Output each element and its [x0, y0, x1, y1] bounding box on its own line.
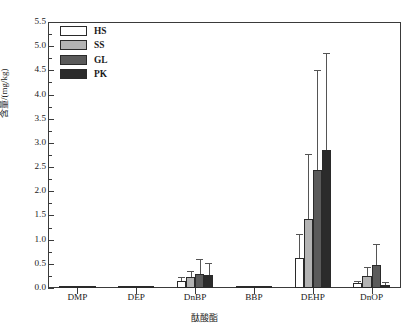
error-bar-cap-DnOP-SS [364, 267, 371, 268]
bar-DMP-HS [59, 286, 68, 288]
x-axis-tick-label: DnOP [342, 292, 402, 302]
bar-DnOP-GL [372, 265, 381, 288]
bar-DnBP-PK [204, 275, 213, 288]
legend-swatch-GL [60, 55, 87, 65]
x-axis-tick-label: DEHP [283, 292, 343, 302]
legend-item-GL: GL [60, 53, 108, 66]
error-bar-cap-DnBP-HS [178, 277, 185, 278]
legend-label-PK: PK [94, 69, 107, 79]
x-axis-tick-label: DnBP [165, 292, 225, 302]
y-axis-tick-label: 2.0 [0, 186, 46, 195]
bar-DEHP-PK [322, 150, 331, 288]
y-axis-tick-label: 3.5 [0, 114, 46, 123]
y-axis-tick-label: 0.5 [0, 259, 46, 268]
x-axis-tick-label: BBP [224, 292, 284, 302]
bar-DnOP-HS [353, 283, 362, 288]
error-bar-DnBP-GL [200, 259, 201, 274]
bar-BBP-GL [254, 286, 263, 288]
bar-DEHP-HS [295, 258, 304, 288]
y-axis-tick-label: 2.5 [0, 162, 46, 171]
error-bar-DnOP-SS [367, 267, 368, 276]
x-axis-tick-label: DMP [47, 292, 107, 302]
error-bar-DEHP-HS [299, 234, 300, 257]
y-axis-tick-label: 5.0 [0, 41, 46, 50]
bar-DMP-PK [87, 286, 96, 288]
legend: HSSSGLPK [60, 24, 108, 82]
y-axis-tick-label: 1.5 [0, 210, 46, 219]
error-bar-cap-DnOP-HS [354, 281, 361, 282]
legend-swatch-SS [60, 40, 87, 50]
error-bar-cap-DnOP-GL [373, 244, 380, 245]
bar-DnBP-HS [177, 281, 186, 288]
phthalate-content-bar-chart: 含量/(mg/kg) 0.00.51.01.52.02.53.03.54.04.… [0, 0, 409, 332]
y-axis-tick-label: 4.5 [0, 65, 46, 74]
legend-label-HS: HS [94, 26, 107, 36]
error-bar-cap-DnOP-PK [382, 282, 389, 283]
bar-DnOP-PK [381, 285, 390, 288]
legend-item-PK: PK [60, 68, 108, 81]
error-bar-cap-DnBP-PK [205, 263, 212, 264]
y-axis-tick-label: 4.0 [0, 90, 46, 99]
y-axis-tick-mark [48, 288, 54, 289]
legend-label-GL: GL [94, 55, 108, 65]
bar-DEP-SS [127, 286, 136, 288]
legend-label-SS: SS [94, 40, 104, 50]
error-bar-DnBP-PK [209, 263, 210, 276]
legend-item-HS: HS [60, 24, 108, 37]
error-bar-DEHP-GL [317, 70, 318, 169]
bar-DnBP-SS [186, 277, 195, 288]
bar-DEHP-SS [304, 219, 313, 288]
bar-DEP-PK [145, 286, 154, 288]
error-bar-cap-DnBP-GL [196, 259, 203, 260]
error-bar-cap-DEHP-HS [296, 234, 303, 235]
bar-DEP-HS [118, 286, 127, 288]
bar-BBP-HS [236, 286, 245, 288]
y-axis-tick-label: 1.0 [0, 235, 46, 244]
bar-BBP-SS [245, 286, 254, 288]
error-bar-cap-DnBP-SS [187, 271, 194, 272]
bar-DnBP-GL [195, 274, 204, 288]
error-bar-cap-DEHP-GL [314, 70, 321, 71]
bar-DMP-SS [68, 286, 77, 288]
y-axis-tick-label: 3.0 [0, 138, 46, 147]
legend-swatch-PK [60, 69, 87, 79]
error-bar-DEHP-PK [326, 53, 327, 150]
bar-DMP-GL [77, 286, 86, 288]
bar-BBP-PK [263, 286, 272, 288]
bar-DEHP-GL [313, 170, 322, 288]
bar-DEP-GL [136, 286, 145, 288]
x-axis-tick-label: DEP [106, 292, 166, 302]
bar-DnOP-SS [362, 276, 371, 288]
error-bar-cap-DEHP-SS [305, 154, 312, 155]
error-bar-DnOP-GL [376, 244, 377, 265]
error-bar-DnBP-SS [191, 271, 192, 278]
legend-swatch-HS [60, 26, 87, 36]
error-bar-DEHP-SS [308, 154, 309, 219]
legend-item-SS: SS [60, 39, 108, 52]
error-bar-cap-DEHP-PK [323, 53, 330, 54]
y-axis-tick-label: 5.5 [0, 17, 46, 26]
x-axis-label: 酞酸酯 [0, 311, 409, 324]
y-axis-tick-label: 0.0 [0, 283, 46, 292]
